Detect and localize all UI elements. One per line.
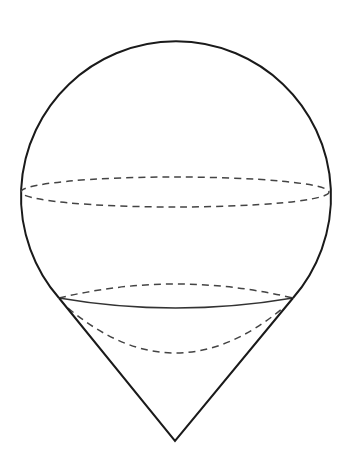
sphere-outline <box>21 41 331 298</box>
sphere-cone-diagram <box>0 0 349 469</box>
sphere-equator <box>21 177 329 207</box>
tangent-circle-front <box>59 298 293 308</box>
cone-sides <box>59 298 293 441</box>
sphere-hidden-cap <box>68 308 283 353</box>
tangent-circle-back <box>59 284 293 298</box>
